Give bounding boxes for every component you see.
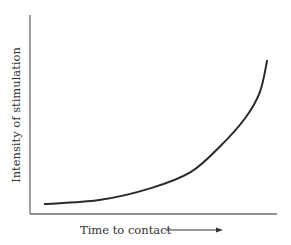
- intensity-curve: [45, 61, 267, 204]
- x-axis-label: Time to contact: [80, 223, 172, 237]
- y-axis-label: Intensity of stimulation: [9, 47, 23, 183]
- chart: Intensity of stimulation Time to contact: [0, 0, 291, 245]
- x-direction-arrow-icon: [166, 228, 223, 233]
